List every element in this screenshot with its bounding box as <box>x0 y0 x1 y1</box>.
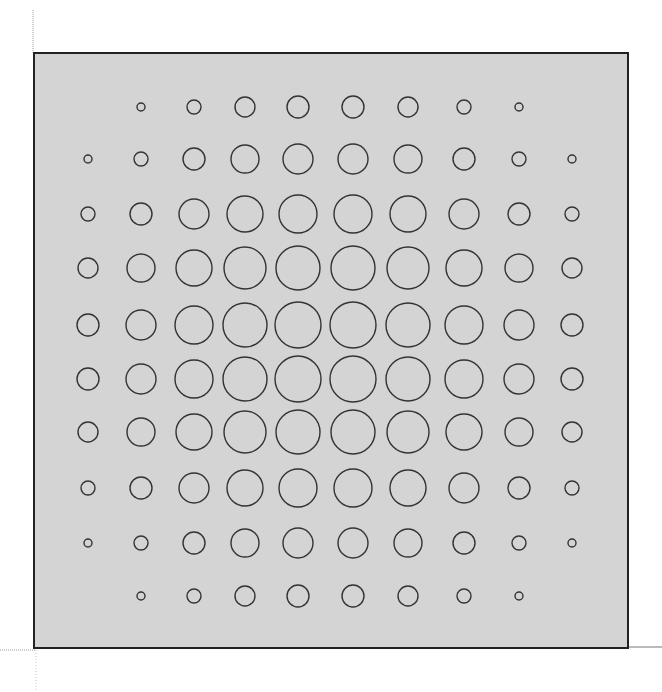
circle-grid-figure <box>0 0 662 692</box>
gray-panel <box>34 53 628 648</box>
figure-stage <box>0 0 662 692</box>
